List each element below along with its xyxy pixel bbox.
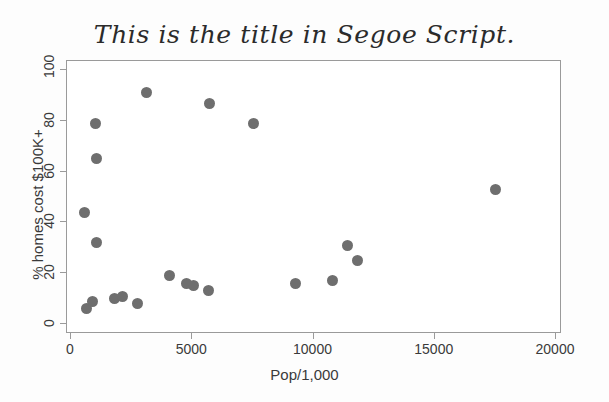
data-point xyxy=(90,118,101,129)
data-point xyxy=(352,255,363,266)
x-tick-label: 0 xyxy=(66,341,74,357)
data-point xyxy=(327,275,338,286)
data-point xyxy=(87,296,98,307)
data-point xyxy=(342,240,353,251)
y-tick-mark xyxy=(60,69,66,70)
y-tick-mark xyxy=(60,272,66,273)
x-tick-label: 20000 xyxy=(536,341,575,357)
data-point xyxy=(132,298,143,309)
y-tick-label: 0 xyxy=(41,314,57,332)
x-tick-label: 10000 xyxy=(293,341,332,357)
scatter-chart-figure: This is the title in Segoe Script. 05000… xyxy=(0,0,609,402)
x-tick-mark xyxy=(313,333,314,339)
data-point xyxy=(290,278,301,289)
chart-title: This is the title in Segoe Script. xyxy=(0,20,609,49)
data-point xyxy=(188,280,199,291)
data-point xyxy=(91,153,102,164)
data-point xyxy=(79,207,90,218)
x-tick-label: 15000 xyxy=(414,341,453,357)
x-tick-mark xyxy=(555,333,556,339)
x-axis-label: Pop/1,000 xyxy=(0,366,609,383)
data-point xyxy=(204,98,215,109)
data-point xyxy=(117,291,128,302)
data-point xyxy=(91,237,102,248)
y-tick-mark xyxy=(60,171,66,172)
x-tick-mark xyxy=(70,333,71,339)
data-point xyxy=(164,270,175,281)
plot-area xyxy=(67,61,560,332)
y-tick-label: 100 xyxy=(41,60,57,78)
y-tick-mark xyxy=(60,120,66,121)
data-point xyxy=(248,118,259,129)
y-axis-label: % homes cost $100K+ xyxy=(29,105,46,305)
data-point xyxy=(490,184,501,195)
x-tick-mark xyxy=(191,333,192,339)
x-tick-mark xyxy=(434,333,435,339)
data-point xyxy=(141,87,152,98)
plot-frame xyxy=(66,60,561,333)
y-tick-mark xyxy=(60,221,66,222)
data-point xyxy=(203,285,214,296)
x-tick-label: 5000 xyxy=(176,341,207,357)
y-tick-mark xyxy=(60,323,66,324)
